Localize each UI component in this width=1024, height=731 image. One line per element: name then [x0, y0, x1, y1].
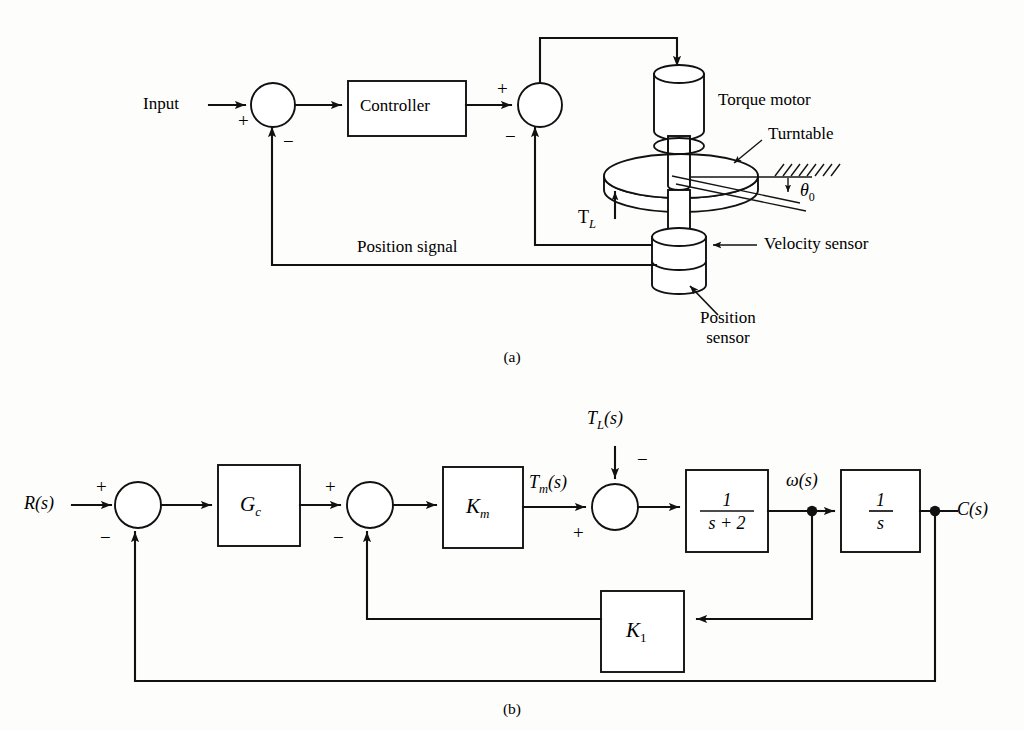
turntable-leader-arrow — [734, 140, 762, 163]
summing-junction-1 — [251, 83, 295, 127]
velocity-feedback-block — [601, 591, 684, 672]
summing-junction-b1 — [115, 482, 161, 528]
summing-junction-b3 — [592, 484, 638, 530]
sensor-stack-top — [652, 228, 706, 246]
summing-junction-b2 — [347, 482, 393, 528]
ground-hatching — [775, 164, 840, 176]
figure-canvas — [0, 0, 1024, 731]
figure-root: Input + − Controller + − Torque motor Tu… — [0, 0, 1024, 731]
position-sensor-leader — [690, 286, 718, 315]
diagram-b-group — [72, 447, 957, 681]
torque-motor-top — [654, 65, 704, 83]
diagram-a-group — [209, 38, 840, 315]
motor-gain-block — [443, 467, 523, 548]
controller-gain-block — [218, 465, 300, 546]
summing-junction-2 — [518, 83, 562, 127]
controller-block — [348, 81, 466, 136]
